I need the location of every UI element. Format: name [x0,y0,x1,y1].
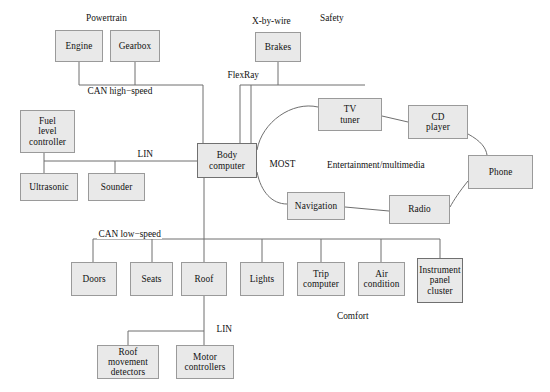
label-entertainment-multimedia: Entertainment/multimedia [327,160,425,170]
node-lights[interactable]: Lights [240,262,284,296]
node-motor-controllers[interactable]: Motor controllers [176,345,234,379]
node-roof[interactable]: Roof [181,262,227,296]
bus-label-flexray: FlexRay [226,70,261,80]
node-fuel-level-controller[interactable]: Fuel level controller [20,110,75,153]
label-powertrain: Powertrain [86,13,127,23]
wire-most-cd-player-to-phone [468,134,487,155]
wire-most-tv-tuner-to-cd-player [382,116,408,122]
node-phone[interactable]: Phone [468,155,533,189]
node-ultrasonic[interactable]: Ultrasonic [20,173,78,201]
node-radio[interactable]: Radio [389,195,450,224]
node-brakes[interactable]: Brakes [255,32,301,62]
bus-label-most: MOST [268,159,297,169]
bus-label-lin-roof: LIN [215,324,234,334]
node-engine[interactable]: Engine [55,30,103,62]
node-air-condition[interactable]: Air condition [358,262,405,296]
node-instrument-panel-cluster[interactable]: Instrument panel cluster [417,258,463,303]
label-safety: Safety [320,13,344,23]
wire-most-ring-lower-left [257,172,287,204]
node-cd-player[interactable]: CD player [408,105,468,139]
label-comfort: Comfort [337,311,369,321]
node-roof-movement-detectors[interactable]: Roof movement detectors [97,345,159,379]
node-sounder[interactable]: Sounder [88,173,145,201]
node-seats[interactable]: Seats [130,262,173,296]
wire-most-ring-upper-left [257,106,318,150]
wire-brakes-to-flexray [278,62,365,85]
bus-label-can-high-speed: CAN high−speed [86,86,154,96]
wire-most-phone-to-radio [450,181,468,207]
diagram-canvas: EngineGearboxBrakesFuel level controller… [0,0,550,392]
wire-most-radio-to-navigation [345,207,389,211]
bus-label-lin-front: LIN [136,149,155,159]
label-x-by-wire: X-by-wire [252,16,291,26]
bus-label-can-low-speed: CAN low−speed [97,229,162,239]
wire-engine-to-can-high-speed [79,62,203,143]
node-navigation[interactable]: Navigation [287,192,345,220]
node-trip-computer[interactable]: Trip computer [297,262,345,296]
node-gearbox[interactable]: Gearbox [110,30,160,62]
node-body-computer[interactable]: Body computer [197,143,257,178]
node-tv-tuner[interactable]: TV tuner [318,98,382,131]
node-doors[interactable]: Doors [71,262,117,296]
